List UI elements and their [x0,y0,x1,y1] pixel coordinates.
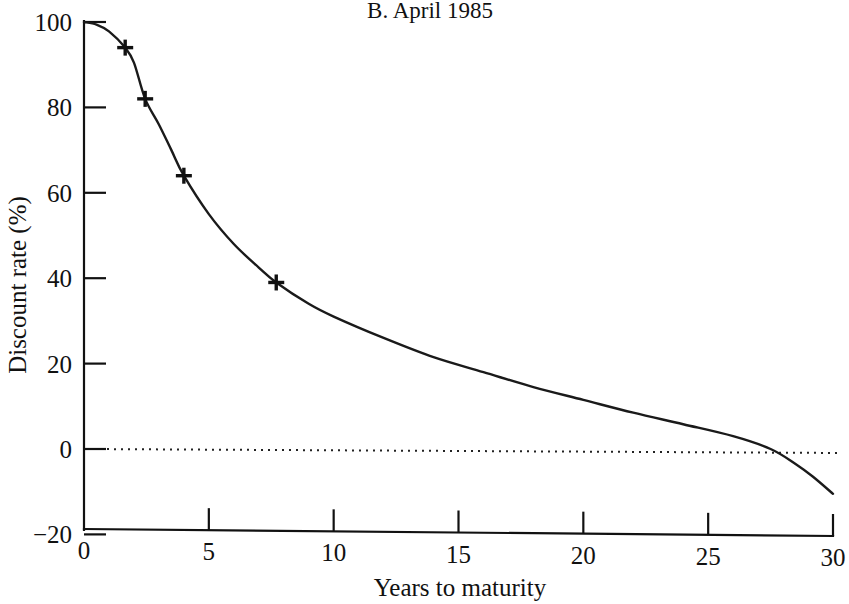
x-tick-label: 20 [571,542,596,569]
data-point-marker [137,91,153,107]
data-point-marker [176,168,192,184]
y-tick-label: 60 [47,180,72,207]
y-tick-label: 20 [47,351,72,378]
chart-title: B. April 1985 [367,0,493,23]
data-point-markers [117,40,284,291]
x-tick-label: 5 [203,538,216,565]
x-tick-label: 25 [696,543,721,570]
y-tick-label: 100 [35,9,73,36]
y-axis-ticks: 100806040200−20 [33,9,106,548]
y-tick-label: 40 [47,265,72,292]
y-axis-title: Discount rate (%) [4,196,32,374]
x-axis-ticks: 051015202530 [78,508,846,571]
zero-reference-line [86,449,840,453]
discount-rate-chart: B. April 1985 Discount rate (%) Years to… [0,0,849,604]
chart-figure: B. April 1985 Discount rate (%) Years to… [0,0,849,604]
y-tick-label: 0 [60,436,73,463]
y-tick-label: 80 [47,94,72,121]
x-tick-label: 10 [321,539,346,566]
y-tick-label: −20 [33,521,72,548]
x-axis-title: Years to maturity [374,574,547,601]
x-tick-label: 0 [78,537,91,564]
discount-rate-curve [84,22,833,494]
x-tick-label: 30 [821,544,846,571]
x-tick-label: 15 [446,541,471,568]
